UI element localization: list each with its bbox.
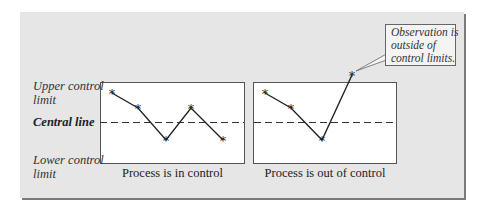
central-line-label: Central line (33, 115, 94, 129)
upper-label-line1: Upper control (33, 79, 104, 93)
lower-control-limit-label: Lower control limit (33, 153, 104, 181)
callout-line2: outside of (391, 39, 452, 52)
caption-out-of-control: Process is out of control (253, 166, 397, 181)
asterisk-marker: * (163, 133, 170, 148)
lower-label-line1: Lower control (33, 153, 104, 167)
asterisk-marker: * (319, 133, 326, 148)
asterisk-marker: * (135, 101, 142, 116)
caption-in-control: Process is in control (100, 166, 245, 181)
callout-line3: control limits. (391, 52, 452, 65)
asterisk-marker: * (349, 68, 356, 83)
callout-box: Observation is outside of control limits… (385, 24, 456, 66)
asterisk-marker: * (220, 133, 227, 148)
asterisk-marker: * (109, 86, 116, 101)
asterisk-marker: * (188, 101, 195, 116)
lower-label-line2: limit (33, 167, 104, 181)
asterisk-marker: * (262, 86, 269, 101)
asterisk-marker: * (288, 101, 295, 116)
upper-control-limit-label: Upper control limit (33, 79, 104, 107)
upper-label-line2: limit (33, 93, 104, 107)
callout-line1: Observation is (391, 26, 452, 39)
